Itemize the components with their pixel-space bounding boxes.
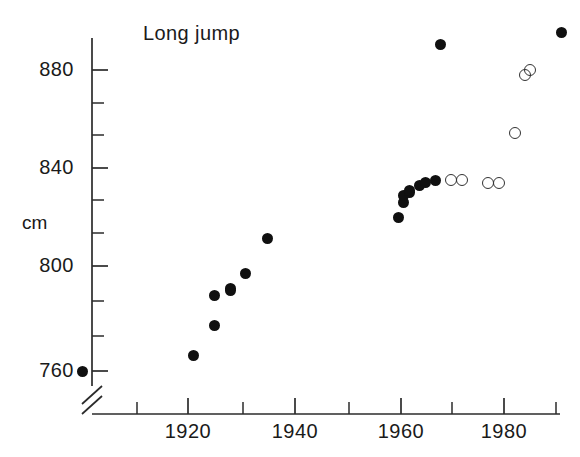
data-point-open xyxy=(456,174,468,186)
data-point-filled xyxy=(77,366,88,377)
data-point-filled xyxy=(393,212,404,223)
data-point-open xyxy=(493,177,505,189)
data-point-filled xyxy=(225,283,236,294)
data-point-filled xyxy=(556,27,567,38)
scatter-plot-figure: 880 840 800 760 cm 1920 1940 1960 1980 L… xyxy=(0,0,580,457)
data-point-filled xyxy=(209,290,220,301)
data-point-filled xyxy=(262,233,273,244)
data-point-filled xyxy=(430,175,441,186)
data-point-layer xyxy=(0,0,580,457)
data-point-filled xyxy=(209,320,220,331)
data-point-open xyxy=(509,127,521,139)
data-point-filled xyxy=(188,350,199,361)
data-point-filled xyxy=(404,185,415,196)
data-point-filled xyxy=(420,177,431,188)
data-point-filled xyxy=(435,39,446,50)
data-point-open xyxy=(524,64,536,76)
data-point-filled xyxy=(240,268,251,279)
